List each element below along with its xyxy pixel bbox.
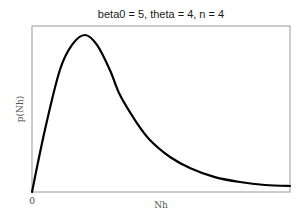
- density-curve: [32, 35, 290, 192]
- chart: beta0 = 5, theta = 4, n = 4 0 Nh p(Nh): [0, 0, 305, 219]
- x-tick-zero: 0: [29, 196, 35, 206]
- y-axis-label: p(Nh): [15, 96, 25, 122]
- plot-frame: [32, 26, 290, 192]
- chart-title: beta0 = 5, theta = 4, n = 4: [98, 8, 224, 20]
- x-axis-label: Nh: [154, 200, 168, 210]
